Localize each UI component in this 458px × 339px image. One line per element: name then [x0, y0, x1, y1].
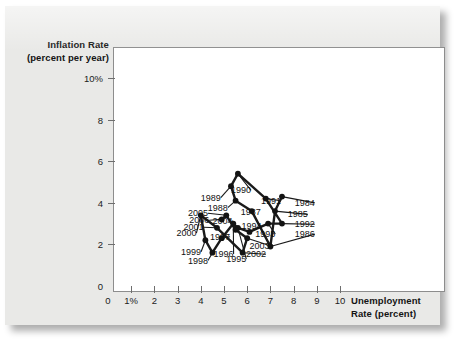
data-point-label: 1984 [295, 198, 315, 208]
data-point [233, 227, 239, 233]
data-point-label: 2004 [212, 216, 232, 226]
data-point-label: 1992 [295, 219, 315, 229]
data-point [265, 221, 271, 227]
data-point-label: 1999 [181, 247, 201, 257]
data-point-label: 1987 [241, 207, 261, 217]
data-point-label: 1998 [188, 256, 208, 266]
data-point-label: 1985 [288, 209, 308, 219]
data-point [203, 237, 209, 243]
data-point-label: 1989 [201, 193, 221, 203]
data-point [272, 208, 278, 214]
data-point-label: 1997 [210, 232, 230, 242]
data-point-label: 1990 [231, 185, 251, 195]
data-point-label: 1994 [241, 221, 261, 231]
data-point [235, 171, 241, 177]
data-point [233, 198, 239, 204]
data-point-label: 1986 [295, 229, 315, 239]
data-point-label: 1996 [214, 249, 234, 259]
data-point-label: 2003 [250, 241, 270, 251]
data-point-label: 1991 [261, 196, 281, 206]
chart-figure: Inflation Rate (percent per year) Unempl… [0, 0, 458, 339]
point-label-group: 1984198519861987198819891990199119921993… [176, 185, 314, 265]
data-point-label: 2002 [246, 249, 266, 259]
data-point-label: 2006 [189, 215, 209, 225]
data-point-label: 1988 [208, 203, 228, 213]
data-overlay: 1984198519861987198819891990199119921993… [0, 0, 458, 339]
data-point [214, 225, 220, 231]
data-point [279, 221, 285, 227]
